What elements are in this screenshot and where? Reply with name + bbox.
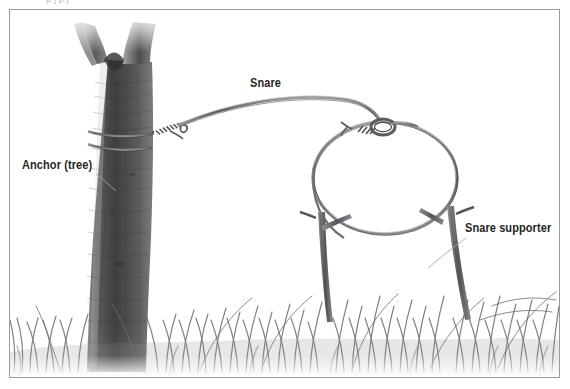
snare-trap-drawing bbox=[0, 0, 570, 389]
tree-trunk bbox=[66, 12, 166, 372]
anchor-twist bbox=[152, 123, 181, 134]
label-snare-supporter: Snare supporter bbox=[465, 221, 551, 235]
supporter-stick-left bbox=[300, 212, 352, 322]
label-anchor-tree: Anchor (tree) bbox=[22, 158, 92, 172]
label-snare: Snare bbox=[250, 76, 281, 90]
illustration-canvas: p j p j bbox=[0, 0, 570, 389]
